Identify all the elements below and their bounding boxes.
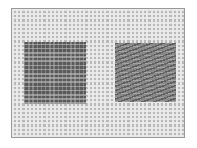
stitch-sample-left (24, 42, 86, 104)
stitch-sample-right (115, 43, 176, 102)
